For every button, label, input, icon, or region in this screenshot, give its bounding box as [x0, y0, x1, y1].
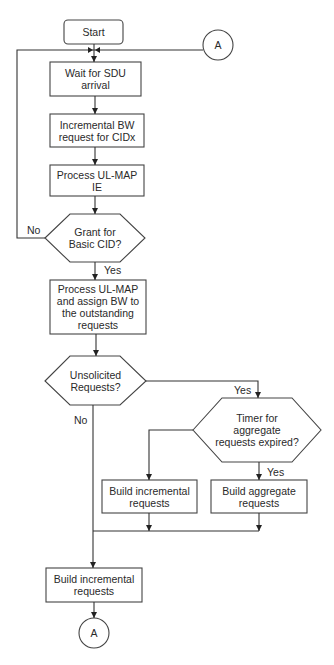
grant-no-label: No	[27, 224, 40, 236]
build-incremental-mid-label: Build incremental requests	[102, 480, 197, 513]
process-ie-label: Process UL-MAP IE	[50, 165, 144, 196]
incremental-bw-label: Incremental BW request for CIDx	[50, 114, 144, 147]
wait-label: Wait for SDU arrival	[50, 62, 141, 96]
start-label: Start	[64, 20, 123, 44]
unsolicited-no-label: No	[74, 414, 87, 426]
grant-decision-label: Grant for Basic CID?	[45, 214, 145, 262]
timer-yes-label: Yes	[267, 466, 284, 478]
timer-decision-label: Timer for aggregate requests expired?	[193, 398, 321, 462]
unsolicited-yes-label: Yes	[234, 384, 251, 396]
grant-yes-label: Yes	[104, 264, 121, 276]
connector-a-bottom-label: A	[79, 618, 109, 648]
unsolicited-decision-label: Unsolicited Requests?	[45, 356, 146, 405]
build-aggregate-label: Build aggregate requests	[211, 480, 307, 513]
process-assign-label: Process UL-MAP and assign BW to the outs…	[50, 280, 146, 334]
build-incremental-final-label: Build incremental requests	[46, 568, 142, 602]
connector-a-top-label: A	[203, 30, 233, 60]
